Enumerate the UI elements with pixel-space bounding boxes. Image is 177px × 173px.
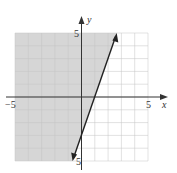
graph: y 5 −5 5 x 5 — [0, 0, 177, 173]
x-axis-label: x — [161, 99, 167, 110]
y-tick-min: 5 — [76, 156, 81, 167]
y-tick-max: 5 — [74, 28, 79, 39]
x-tick-max: 5 — [146, 99, 151, 110]
y-axis-arrow-icon — [79, 16, 85, 24]
x-tick-min: −5 — [5, 99, 16, 110]
y-axis-label: y — [86, 14, 92, 25]
